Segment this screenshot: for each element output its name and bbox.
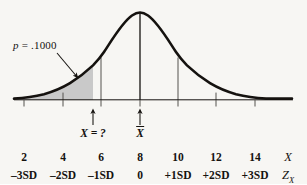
z-tick-label-5: +1SD (164, 170, 191, 182)
probability-equals: = (19, 39, 31, 51)
z-tick-label-1: –3SD (11, 170, 37, 182)
x-tick-label-1: 2 (21, 152, 27, 164)
x-row-label: X (284, 151, 292, 164)
mean-symbol: X (136, 128, 144, 140)
z-tick-label-6: +2SD (202, 170, 229, 182)
x-tick-label-6: 12 (210, 152, 222, 164)
z-row-label: ZX (282, 169, 294, 184)
x-tick-label-3: 6 (98, 152, 104, 164)
probability-value: .1000 (31, 39, 57, 51)
z-tick-label-4: 0 (137, 170, 143, 182)
x-tick-label-4: 8 (137, 152, 143, 164)
z-tick-label-3: –1SD (88, 170, 114, 182)
mean-label: X (136, 128, 144, 140)
bell-curve (14, 13, 292, 99)
z-row-label-sub: X (289, 175, 294, 185)
shaded-tail-region (14, 65, 93, 100)
z-tick-label-2: –2SD (50, 170, 76, 182)
probability-leader-arrow (57, 53, 78, 78)
x-tick-label-7: 14 (249, 152, 261, 164)
unknown-score-label: X = ? (80, 128, 106, 140)
z-row-label-base: Z (282, 168, 289, 182)
normal-distribution-figure: p = .1000 X = ? X 2 4 6 8 10 12 14 X –3S… (0, 0, 307, 184)
z-tick-label-7: +3SD (241, 170, 268, 182)
probability-label: p = .1000 (13, 40, 57, 51)
x-tick-label-2: 4 (60, 152, 66, 164)
x-tick-label-5: 10 (172, 152, 184, 164)
